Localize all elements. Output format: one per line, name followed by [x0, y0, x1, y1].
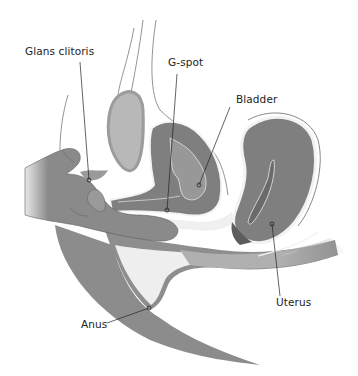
uterus [234, 117, 316, 242]
leader-line-glans-clitoris [80, 62, 89, 180]
contour-line [118, 28, 134, 95]
label-uterus: Uterus [276, 296, 311, 308]
contour-line [60, 95, 68, 150]
anatomy-diagram: Glans clitoris G-spot Bladder Uterus Anu… [0, 0, 358, 376]
label-bladder: Bladder [236, 93, 277, 105]
pubic-bone [108, 92, 143, 171]
label-anus: Anus [81, 318, 107, 330]
label-glans-clitoris: Glans clitoris [25, 45, 94, 57]
contour-line [130, 20, 143, 100]
label-g-spot: G-spot [168, 56, 203, 68]
